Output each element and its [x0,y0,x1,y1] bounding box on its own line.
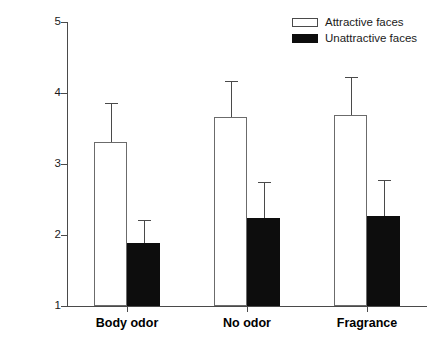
y-tick: 1 [0,306,61,307]
legend-item-0: Attractive faces [292,15,417,29]
x-tick-mark [247,306,248,312]
legend-label: Attractive faces [325,16,404,28]
legend-item-1: Unattractive faces [292,31,417,45]
y-tick-label: 2 [35,228,61,240]
y-tick-label: 3 [35,157,61,169]
y-tick-label: 5 [35,15,61,27]
error-bar-stem [111,103,112,142]
y-tick: 4 [0,93,61,94]
y-axis-line [67,22,68,307]
x-category-label-0: Body odor [57,316,197,330]
legend-swatch-filled [292,34,318,43]
error-bar-cap [378,180,391,181]
legend-label: Unattractive faces [325,32,417,44]
bar-chart: Attractiveness Rating 12345 Body odorNo … [0,0,445,353]
bar-open-1 [214,117,247,306]
x-category-label-2: Fragrance [297,316,437,330]
x-tick-mark [127,306,128,312]
chart-legend: Attractive facesUnattractive faces [292,15,417,47]
y-tick-label: 4 [35,86,61,98]
error-bar-cap [345,77,358,78]
error-bar-cap [138,220,151,221]
bar-filled-2 [367,216,400,306]
error-bar-stem [231,81,232,117]
bar-open-2 [334,115,367,306]
y-tick: 3 [0,164,61,165]
error-bar-stem [264,182,265,218]
bar-filled-1 [247,218,280,306]
x-tick-mark [367,306,368,312]
bar-open-0 [94,142,127,306]
x-category-label-1: No odor [177,316,317,330]
error-bar-cap [258,182,271,183]
y-tick-label: 1 [35,299,61,311]
error-bar-stem [384,180,385,216]
error-bar-stem [351,77,352,115]
error-bar-cap [225,81,238,82]
error-bar-stem [144,220,145,243]
legend-swatch-open [292,18,318,27]
y-tick: 2 [0,235,61,236]
bar-filled-0 [127,243,160,306]
error-bar-cap [105,103,118,104]
y-tick: 5 [0,22,61,23]
